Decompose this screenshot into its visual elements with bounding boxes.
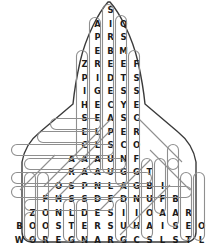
word-search-puzzle: SAIQPRSEBMZREEFPIDTSIGESSHECYESEASCELPER… [0, 0, 218, 247]
found-word-rings [0, 0, 218, 247]
